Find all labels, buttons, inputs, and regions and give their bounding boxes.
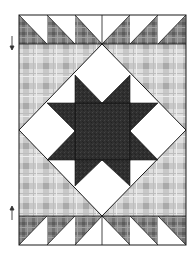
quilt-svg xyxy=(0,0,196,255)
down-arrow-icon xyxy=(10,36,14,50)
up-arrow-icon xyxy=(10,206,14,220)
top-border-row xyxy=(19,15,186,44)
bottom-border-row xyxy=(19,216,186,245)
star-center-square xyxy=(75,103,130,160)
quilt-diagram xyxy=(0,0,196,255)
